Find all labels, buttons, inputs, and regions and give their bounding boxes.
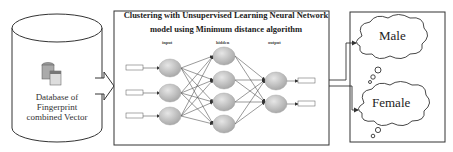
output-node bbox=[265, 72, 287, 90]
database-label: Database of Fingerprint combined Vector bbox=[22, 92, 92, 122]
male-label: Male bbox=[379, 28, 406, 44]
female-label: Female bbox=[372, 95, 410, 111]
hidden-node bbox=[213, 115, 235, 133]
hidden-node bbox=[213, 93, 235, 111]
hidden-node bbox=[213, 47, 235, 65]
input-node bbox=[159, 107, 181, 125]
hidden-node bbox=[213, 71, 235, 89]
layer-output-label: output bbox=[268, 40, 281, 45]
output-connector bbox=[329, 43, 358, 110]
input-node bbox=[159, 84, 181, 102]
network-title: Clustering with Unsupervised Learning Ne… bbox=[116, 8, 336, 36]
layer-hidden-label: hidden bbox=[216, 40, 229, 45]
output-node bbox=[265, 95, 287, 113]
layer-input-label: input bbox=[162, 40, 172, 45]
input-node bbox=[159, 59, 181, 77]
